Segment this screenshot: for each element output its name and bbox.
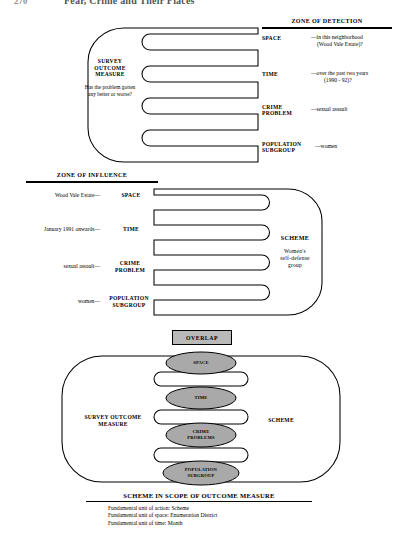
detection-value-population: —women — [315, 143, 402, 150]
influence-dimension-crime-line2: PROBLEM — [104, 267, 156, 274]
zone-of-detection-rule — [262, 27, 392, 29]
running-head-title: Fear, Crime and Their Places — [64, 0, 195, 6]
zone-of-influence-heading: ZONE OF INFLUENCE — [32, 172, 152, 178]
page-folio: 270 — [14, 0, 28, 6]
scheme-middle-desc-line2: self-defense — [262, 255, 328, 262]
caption-line-action: Fundamental unit of action: Scheme — [108, 505, 312, 512]
overlap-right-label: SCHEME — [250, 417, 312, 424]
scheme-middle-desc-line3: group — [262, 262, 328, 269]
overlap-label: OVERLAP — [186, 335, 218, 341]
survey-outcome-top-question: Has the problem gotten any better or wor… — [82, 84, 138, 98]
influence-value-time: January 1991 onwards— — [12, 226, 100, 233]
caption-line-space: Fundamental unit of space: Enumeration D… — [108, 512, 312, 519]
zone-of-detection-heading: ZONE OF DETECTION — [262, 18, 392, 24]
influence-dimension-space: SPACE — [108, 192, 154, 199]
detection-value-space-line2: (Wood Vale Estate)? — [317, 41, 402, 48]
detection-dimension-time: TIME — [262, 71, 302, 78]
survey-outcome-top-title-line3: MEASURE — [76, 71, 144, 78]
influence-value-crime: sexual assault— — [28, 263, 100, 270]
detection-value-time-line2: (1990 - 92)? — [324, 77, 402, 84]
overlap-left-label-line2: MEASURE — [70, 421, 156, 428]
influence-value-space: Wood Vale Estate— — [28, 192, 100, 199]
figure-page: 270 Fear, Crime and Their Places ZONE OF… — [0, 0, 402, 540]
overlap-box: OVERLAP — [172, 330, 232, 345]
caption-block: SCHEME IN SCOPE OF OUTCOME MEASURE Funda… — [86, 492, 312, 527]
detection-dimension-space: SPACE — [262, 35, 302, 42]
caption-rule — [86, 501, 312, 503]
detection-value-crime: —sexual assault — [311, 106, 401, 113]
detection-dimension-crime-line2: PROBLEM — [262, 110, 307, 117]
detection-value-space-line1: —in this neighborhood — [311, 34, 401, 41]
zone-of-influence-rule — [26, 181, 158, 183]
scheme-middle-desc-line1: Women's — [262, 248, 328, 255]
influence-value-population: women— — [28, 298, 100, 305]
scheme-middle-title: SCHEME — [262, 235, 328, 242]
influence-dimension-time: TIME — [108, 226, 154, 233]
caption-title: SCHEME IN SCOPE OF OUTCOME MEASURE — [86, 492, 312, 499]
running-head: 270 Fear, Crime and Their Places — [0, 0, 402, 8]
caption-line-time: Fundamental unit of time: Month — [108, 520, 312, 527]
detection-value-time-line1: —over the past two years — [311, 70, 402, 77]
detection-dimension-population-line2: SUBGROUP — [262, 147, 312, 154]
